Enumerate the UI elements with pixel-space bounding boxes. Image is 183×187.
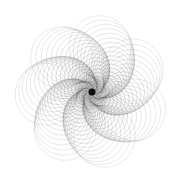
spiral-rosette: [0, 0, 183, 187]
spirograph-artwork: [0, 0, 183, 187]
dark-center: [89, 89, 96, 96]
